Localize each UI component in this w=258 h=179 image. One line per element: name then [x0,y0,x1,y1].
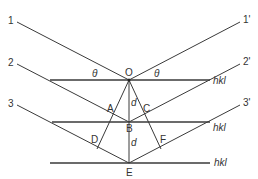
label-theta-right: θ [154,68,160,79]
label-E: E [126,167,133,178]
label-C: C [143,103,150,114]
diffracted-ray-1 [129,22,240,80]
label-hkl-3: hkl [214,157,228,168]
point-O-dot [128,79,131,82]
label-D: D [91,134,98,145]
label-theta-left: θ [92,68,98,79]
label-ray-3: 3 [8,98,14,109]
label-d-2: d [131,137,137,148]
label-ray-1: 1 [8,15,14,26]
label-ray-3p: 3' [243,97,251,108]
bragg-diagram: 1 2 3 1' 2' 3' O A B C D E F θ θ d d hkl… [0,0,258,179]
wavefront-OD [97,80,129,149]
label-A: A [107,103,114,114]
label-ray-2: 2 [8,57,14,68]
label-d-1: d [131,97,137,108]
label-ray-1p: 1' [243,14,251,25]
label-B: B [126,123,133,134]
incident-ray-1 [17,22,129,80]
diagram-svg: 1 2 3 1' 2' 3' O A B C D E F θ θ d d hkl… [0,0,258,179]
label-O: O [125,67,133,78]
label-F: F [160,134,166,145]
label-hkl-1: hkl [213,75,227,86]
label-ray-2p: 2' [243,56,251,67]
label-hkl-2: hkl [213,122,227,133]
